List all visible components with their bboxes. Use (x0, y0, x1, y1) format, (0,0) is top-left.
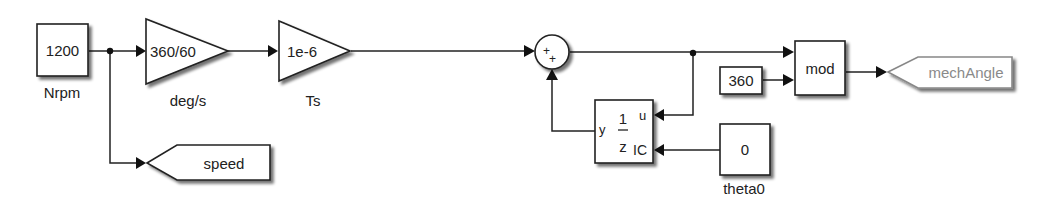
sum-sign-2: + (549, 52, 556, 66)
block-label-degs: deg/s (170, 92, 207, 109)
sum-block[interactable]: + + (535, 35, 569, 69)
wire-degs-to-ts (228, 45, 278, 57)
mod-label: mod (805, 60, 834, 77)
unit-delay-block[interactable]: y 1 z u IC (595, 100, 653, 163)
goto-tag: mechAngle (928, 64, 1003, 81)
wire-ts-to-sum (351, 45, 535, 57)
block-label-theta0: theta0 (723, 180, 765, 197)
diagram-canvas: 1200 Nrpm 360/60 deg/s 1e-6 Ts + + y 1 z… (0, 0, 1042, 204)
math-function-mod-block[interactable]: mod (795, 41, 845, 95)
goto-tag: speed (204, 155, 245, 172)
gain-value: 360/60 (150, 43, 196, 60)
wire-360-to-mod (763, 74, 794, 86)
delay-denominator: z (619, 138, 627, 155)
port-y-label: y (599, 122, 606, 137)
constant-block-360[interactable]: 360 (720, 67, 762, 94)
goto-block-speed[interactable]: speed (147, 145, 270, 180)
gain-block-degs[interactable]: 360/60 (146, 19, 228, 84)
port-ic-label: IC (633, 142, 647, 158)
delay-numerator: 1 (619, 110, 627, 127)
wire-delay-to-sum (546, 69, 595, 131)
gain-value: 1e-6 (287, 43, 317, 60)
wire-nrpm-to-gain (89, 45, 146, 57)
branch-dot-nrpm (107, 48, 113, 54)
wire-branch-to-delay-u (654, 52, 693, 121)
constant-value: 1200 (46, 42, 79, 59)
wire-branch-to-speed (110, 51, 146, 169)
goto-block-mechangle[interactable]: mechAngle (888, 57, 1012, 88)
constant-value: 0 (741, 141, 749, 158)
wire-sum-to-mod (570, 46, 794, 58)
wire-theta0-to-delay-ic (654, 144, 720, 156)
block-label-nrpm: Nrpm (44, 84, 81, 101)
gain-block-ts[interactable]: 1e-6 (279, 21, 350, 81)
constant-block-nrpm[interactable]: 1200 (37, 24, 88, 76)
constant-block-theta0[interactable]: 0 (720, 124, 770, 175)
block-label-ts: Ts (306, 92, 321, 109)
branch-dot-sum-out (690, 50, 696, 56)
constant-value: 360 (728, 72, 753, 89)
wire-mod-to-mechangle (846, 66, 887, 78)
port-u-label: u (639, 108, 646, 123)
